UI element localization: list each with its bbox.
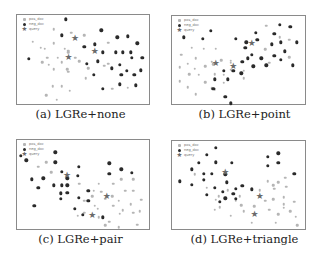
neg-doc-point [277, 161, 280, 164]
neg-doc-point [250, 53, 253, 56]
neg-doc-point [52, 184, 55, 187]
pos-doc-point [92, 189, 95, 192]
neg-doc-point [25, 159, 28, 162]
neg-doc-point [134, 84, 137, 87]
pos-doc-point [136, 223, 139, 226]
query-star-icon: ★ [212, 60, 220, 69]
pos-doc-point [37, 165, 40, 168]
neg-doc-point [241, 184, 244, 187]
legend: pos_doc neg_doc ★query [175, 143, 199, 158]
neg-doc-point [218, 200, 221, 203]
neg-doc-point [241, 60, 244, 63]
pos-doc-point [223, 74, 226, 77]
pos-doc-point [229, 215, 232, 218]
pos-doc-point [203, 47, 206, 50]
pos-doc-point [117, 226, 120, 229]
neg-doc-point [250, 188, 253, 191]
query-star-icon: ★ [250, 210, 258, 219]
star-icon: ★ [22, 152, 28, 157]
neg-doc-point [213, 186, 216, 189]
neg-doc-point [246, 57, 249, 60]
pos-doc-point [294, 215, 297, 218]
pos-doc-point [78, 182, 81, 185]
neg-doc-point [87, 189, 90, 192]
neg-doc-point [129, 51, 132, 54]
neg-doc-point [121, 51, 124, 54]
pos-doc-point [47, 64, 50, 67]
pos-doc-point [53, 68, 56, 71]
pos-doc-point [267, 180, 270, 183]
query-star-icon: ★ [103, 192, 111, 201]
plot-frame: ★★★ pos_doc neg_doc ★query [171, 140, 306, 230]
pos-doc-point [83, 34, 86, 37]
pos-doc-point [111, 88, 114, 91]
pos-doc-point [91, 195, 94, 198]
neg-doc-point [293, 172, 296, 175]
pos-doc-point [284, 177, 287, 180]
neg-doc-point [114, 51, 117, 54]
subplot-caption: (c) LGRe+pair [0, 232, 161, 246]
pos-doc-point [55, 98, 58, 101]
neg-doc-point [223, 196, 226, 199]
neg-doc-point [118, 83, 121, 86]
neg-doc-point [108, 172, 111, 175]
pos-doc-point [213, 73, 216, 76]
pos-doc-point [132, 178, 135, 181]
pos-doc-point [288, 39, 291, 42]
neg-doc-point [116, 36, 119, 39]
pos-doc-point [239, 195, 242, 198]
pos-doc-point [139, 210, 142, 213]
pos-doc-point [43, 48, 46, 51]
neg-doc-point [93, 43, 96, 46]
pos-doc-point [205, 186, 208, 189]
pos-doc-point [217, 195, 220, 198]
neg-doc-point [270, 42, 273, 45]
neg-doc-point [92, 73, 95, 76]
pos-doc-point [50, 171, 53, 174]
neg-doc-point [210, 172, 213, 175]
query-star-icon: ★ [256, 193, 264, 202]
pos-doc-point [120, 178, 123, 181]
pos-doc-point [53, 42, 56, 45]
neg-doc-point [266, 164, 269, 167]
pos-doc-point [296, 224, 299, 227]
pos-doc-point [215, 199, 218, 202]
neg-doc-point [221, 190, 224, 193]
pos-doc-point [227, 189, 230, 192]
neg-doc-point [273, 54, 276, 57]
query-star-icon: ★ [64, 53, 72, 62]
neg-doc-point [178, 180, 181, 183]
legend: pos_doc neg_doc ★query [175, 18, 199, 33]
neg-doc-point [30, 177, 33, 180]
pos-doc-point [195, 93, 198, 96]
query-star-icon: ★ [91, 48, 99, 57]
pos-doc-point [132, 189, 135, 192]
neg-doc-point [226, 78, 229, 81]
pos-doc-point [213, 208, 216, 211]
pos-doc-point [197, 74, 200, 77]
pos-doc-point [46, 56, 49, 59]
neg-doc-point [273, 32, 276, 35]
neg-doc-point [266, 155, 269, 158]
pos-doc-point [240, 204, 243, 207]
neg-doc-point [81, 213, 84, 216]
neg-doc-point [223, 95, 226, 98]
neg-doc-point [101, 87, 104, 90]
plot-frame: ★★★ pos_doc neg_doc ★query [16, 14, 150, 105]
neg-doc-point [259, 57, 262, 60]
neg-doc-point [234, 37, 237, 40]
pos-doc-point [277, 213, 280, 216]
neg-doc-point [101, 216, 104, 219]
pos-doc-point [108, 221, 111, 224]
neg-doc-point [190, 183, 193, 186]
pos-doc-point [104, 224, 107, 227]
subplot-caption: (d) LGRe+triangle [161, 232, 322, 246]
pos-doc-marker-icon [178, 19, 180, 21]
neg-doc-point [54, 161, 57, 164]
pos-doc-point [268, 61, 271, 64]
pos-doc-point [45, 94, 48, 97]
neg-doc-point [64, 18, 67, 21]
plot-frame: ★★★ pos_doc neg_doc ★query [16, 139, 150, 230]
plot-frame: ★★★ pos_doc neg_doc ★query [171, 15, 306, 105]
query-star-icon: ★ [229, 62, 237, 71]
